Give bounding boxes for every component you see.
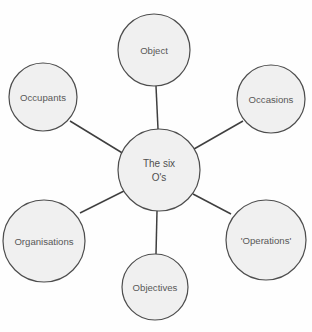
- node-object-label: Object: [140, 45, 168, 56]
- connector-center-to-object: [156, 86, 158, 129]
- node-objectives-label: Objectives: [133, 282, 178, 293]
- node-organisations[interactable]: Organisations: [3, 200, 85, 282]
- node-occasions[interactable]: Occasions: [237, 65, 305, 133]
- node-operations-label: 'Operations': [241, 235, 292, 246]
- connector-center-to-organisations: [80, 191, 124, 213]
- node-center-circle[interactable]: [118, 129, 200, 211]
- node-center-label-line1: The six: [143, 158, 175, 169]
- node-object[interactable]: Object: [118, 14, 190, 86]
- node-center[interactable]: The six O's: [118, 129, 200, 211]
- node-center-label-line2: O's: [152, 172, 167, 183]
- node-occupants[interactable]: Occupants: [9, 63, 77, 131]
- node-organisations-label: Organisations: [14, 236, 73, 247]
- connector-center-to-objectives: [156, 211, 157, 254]
- connector-center-to-occasions: [194, 121, 243, 149]
- node-occupants-label: Occupants: [20, 92, 66, 103]
- connector-center-to-operations: [193, 194, 231, 214]
- node-occasions-label: Occasions: [249, 94, 294, 105]
- node-operations[interactable]: 'Operations': [226, 200, 306, 280]
- six-os-diagram: Object Occasions 'Operations' Objectives…: [0, 0, 312, 332]
- node-objectives[interactable]: Objectives: [122, 254, 188, 320]
- diagram-canvas-root: Object Occasions 'Operations' Objectives…: [0, 0, 312, 332]
- connector-center-to-occupants: [70, 121, 124, 154]
